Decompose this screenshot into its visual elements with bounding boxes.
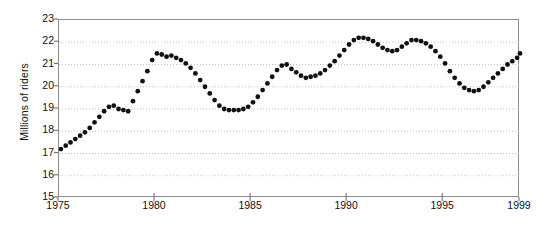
- chart-figure: Millions of riders 151617181920212223 19…: [0, 0, 548, 229]
- axis-tickmarks-layer: [0, 0, 548, 229]
